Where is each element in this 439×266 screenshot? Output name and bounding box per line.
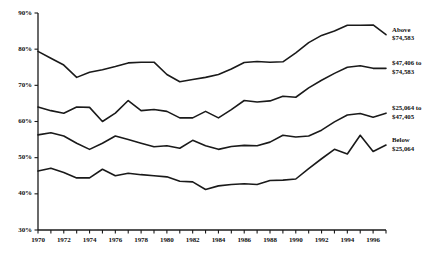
series-label-line: $25,064 to — [392, 104, 421, 113]
y-axis-tick-label: 30% — [2, 226, 32, 234]
y-axis-tick-label: 50% — [2, 153, 32, 161]
x-axis-tick-label: 1996 — [358, 236, 388, 244]
chart-plot-area — [0, 0, 439, 266]
series-label-line: $74,583 — [392, 68, 421, 77]
series-label-line: $47,405 — [392, 113, 421, 122]
series-label: Above$74,583 — [392, 26, 414, 43]
series-line — [38, 113, 386, 149]
y-axis-tick-label: 40% — [2, 189, 32, 197]
series-label: $47,406 to$74,583 — [392, 59, 421, 76]
y-axis-tick-label: 90% — [2, 9, 32, 17]
series-label-line: $47,406 to — [392, 59, 421, 68]
series-line — [38, 66, 386, 122]
series-line — [38, 135, 386, 189]
y-axis-tick-label: 70% — [2, 81, 32, 89]
series-label-line: Below — [392, 136, 414, 145]
series-label-line: Above — [392, 26, 414, 35]
y-axis-tick-label: 80% — [2, 45, 32, 53]
chart-series-lines — [38, 25, 386, 190]
y-axis-tick-label: 60% — [2, 117, 32, 125]
series-label-line: $25,064 — [392, 145, 414, 154]
series-label: Below$25,064 — [392, 136, 414, 153]
series-label-line: $74,583 — [392, 34, 414, 43]
series-label: $25,064 to$47,405 — [392, 104, 421, 121]
chart-container: 90%80%70%60%50%40%30% 197019721974197619… — [0, 0, 439, 266]
